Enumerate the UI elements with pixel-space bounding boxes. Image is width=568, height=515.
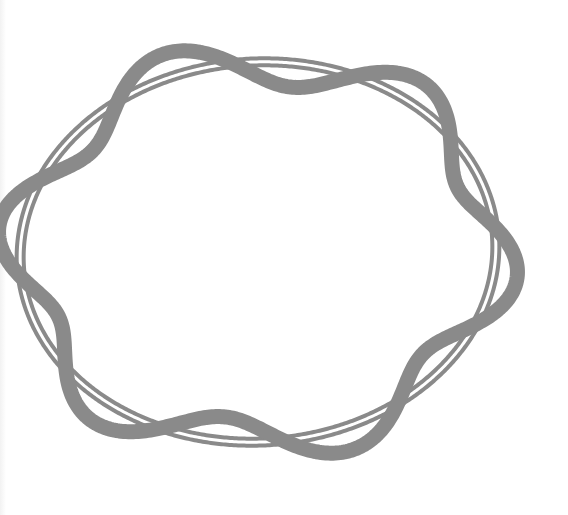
orbit-rings	[17, 58, 500, 445]
standing-wave-band	[0, 51, 517, 453]
orbit-wave-diagram	[0, 0, 568, 515]
orbit-ring-1	[24, 65, 493, 438]
standing-wave-path	[0, 51, 517, 453]
